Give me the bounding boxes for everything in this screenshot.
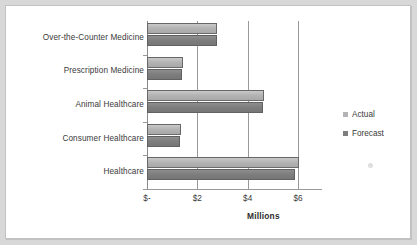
plot-area [147,21,298,189]
bar-group [147,55,298,89]
legend-item-forecast[interactable]: Forecast [343,129,384,138]
bar-group [147,155,298,189]
legend-swatch-icon [343,112,348,117]
chart-figure: Over-the-Counter MedicinePrescription Me… [0,0,417,245]
bar-group [147,88,298,122]
value-axis-tick-labels: $-$2$4$6 [147,194,298,208]
value-tick-label: $2 [193,194,202,203]
bar-actual[interactable] [147,23,217,34]
chart-panel: Over-the-Counter MedicinePrescription Me… [5,5,411,239]
legend-swatch-icon [343,131,348,136]
category-label: Healthcare [8,167,144,176]
value-axis-baseline [147,189,322,190]
bar-actual[interactable] [147,90,264,101]
bar-forecast[interactable] [147,69,182,80]
value-tick-label: $4 [243,194,252,203]
bar-group [147,122,298,156]
category-label: Over-the-Counter Medicine [8,33,144,42]
legend-label: Forecast [352,129,384,138]
value-tick-label: $- [143,194,150,203]
scan-artifact [368,163,373,168]
bar-forecast[interactable] [147,35,217,46]
bar-actual[interactable] [147,157,299,168]
category-axis-labels: Over-the-Counter MedicinePrescription Me… [6,21,144,189]
bar-forecast[interactable] [147,136,180,147]
value-tick-label: $6 [293,194,302,203]
category-label: Prescription Medicine [8,66,144,75]
bar-group [147,21,298,55]
value-axis-title: Millions [247,211,280,221]
category-label: Animal Healthcare [8,100,144,109]
legend-item-actual[interactable]: Actual [343,110,384,119]
bar-forecast[interactable] [147,102,263,113]
category-label: Consumer Healthcare [8,134,144,143]
bar-forecast[interactable] [147,169,295,180]
chart-legend: ActualForecast [343,110,384,148]
legend-label: Actual [352,110,375,119]
bar-actual[interactable] [147,124,181,135]
bar-actual[interactable] [147,57,183,68]
